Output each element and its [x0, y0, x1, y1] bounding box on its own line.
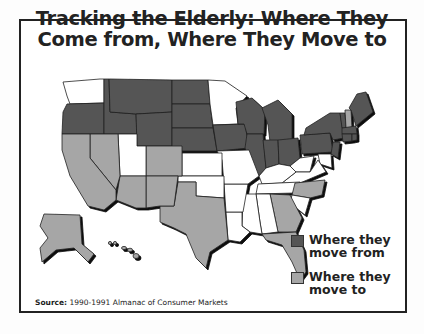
state-sd: [172, 104, 213, 128]
state-pa: [300, 133, 333, 154]
state-nm: [146, 176, 178, 208]
state-nj: [331, 142, 340, 158]
legend: Where they move from Where they move to: [289, 233, 399, 307]
legend-item-move-from: Where they move from: [289, 233, 399, 259]
move-to-swatch: [291, 272, 304, 284]
source-note: Source: 1990-1991 Almanac of Consumer Ma…: [35, 298, 228, 307]
move-from-swatch: [291, 235, 304, 247]
state-az: [116, 176, 146, 208]
state-nd: [172, 80, 210, 104]
legend-item-move-to: Where they move to: [289, 270, 399, 296]
state-ak: [40, 214, 94, 262]
state-me: [349, 92, 373, 126]
state-or: [62, 103, 104, 134]
state-mi: [262, 100, 292, 142]
state-wa: [63, 79, 104, 104]
legend-label: move to: [309, 283, 399, 296]
source-text: 1990-1991 Almanac of Consumer Markets: [70, 298, 228, 307]
state-nh: [345, 110, 352, 128]
state-hi: [108, 241, 139, 258]
state-co: [146, 146, 182, 176]
legend-label: move from: [309, 246, 399, 259]
state-in: [263, 140, 279, 168]
state-ct: [342, 134, 352, 142]
state-wy: [136, 112, 172, 146]
state-nc: [292, 180, 325, 198]
state-ia: [213, 124, 249, 151]
state-mt: [109, 79, 172, 114]
state-ks: [182, 153, 222, 176]
state-ri: [352, 134, 357, 141]
source-label: Source:: [35, 298, 67, 307]
